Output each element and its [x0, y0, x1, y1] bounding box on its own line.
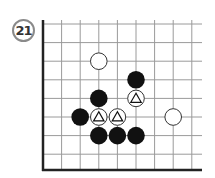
black-stone[interactable] — [90, 127, 108, 145]
black-stone[interactable] — [127, 71, 145, 89]
go-board — [0, 0, 215, 178]
black-stone[interactable] — [90, 90, 108, 108]
white-stone[interactable] — [165, 109, 182, 126]
black-stone[interactable] — [109, 127, 127, 145]
white-stone[interactable] — [91, 53, 108, 70]
white-stone[interactable] — [109, 109, 126, 126]
board-grid — [42, 20, 202, 171]
black-stone[interactable] — [127, 127, 145, 145]
black-stone[interactable] — [71, 108, 89, 126]
white-stone[interactable] — [91, 109, 108, 126]
white-stone[interactable] — [128, 90, 145, 107]
